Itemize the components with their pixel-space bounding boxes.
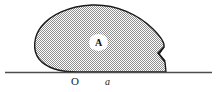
origin-label: O xyxy=(71,76,79,87)
figure-container: O a A xyxy=(0,0,221,92)
figure-canvas xyxy=(0,0,221,92)
region-a-label: A xyxy=(89,34,108,51)
point-a-label: a xyxy=(105,77,110,87)
